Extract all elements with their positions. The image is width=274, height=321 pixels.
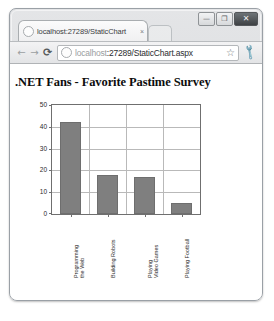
chart-plot-area <box>51 104 201 215</box>
new-tab-button[interactable] <box>148 25 172 42</box>
tab-close-icon[interactable]: × <box>138 28 144 35</box>
y-tick-mark <box>49 105 52 106</box>
x-axis-label: Programmingthe Web <box>73 218 85 278</box>
browser-toolbar: ← → ⟳ localhost:27289/StaticChart.aspx ☆… <box>10 41 262 64</box>
browser-tab[interactable]: localhost:27289/StaticChart × <box>18 20 148 41</box>
globe-icon <box>23 26 34 37</box>
bar <box>134 177 155 214</box>
page-title: .NET Fans - Favorite Pastime Survey <box>15 75 262 90</box>
x-tick-mark <box>182 214 183 217</box>
bar <box>60 122 81 214</box>
minimize-icon: — <box>199 13 214 25</box>
x-tick-mark <box>71 214 72 217</box>
x-axis-label-line: Playing <box>147 218 153 278</box>
y-tick-label: 0 <box>43 210 47 217</box>
page-content: .NET Fans - Favorite Pastime Survey 0102… <box>10 64 262 300</box>
y-tick-label: 10 <box>40 188 47 195</box>
bookmark-star-icon[interactable]: ☆ <box>225 47 236 58</box>
x-axis-label: Building Robots <box>110 218 116 278</box>
bar-chart: 01020304050 Programmingthe WebBuilding R… <box>15 100 243 300</box>
y-axis-labels: 01020304050 <box>29 104 47 215</box>
reload-icon[interactable]: ⟳ <box>41 46 54 59</box>
x-axis-label-line: Programming <box>73 218 79 278</box>
close-icon: ✕ <box>235 13 257 25</box>
maximize-button[interactable]: ❐ <box>216 12 233 26</box>
tab-strip: — ❐ ✕ localhost:27289/StaticChart × <box>10 9 262 41</box>
browser-window: — ❐ ✕ localhost:27289/StaticChart × ← → … <box>9 8 263 301</box>
wrench-menu-icon[interactable]: 🔧 <box>241 43 260 62</box>
y-tick-mark <box>49 170 52 171</box>
x-axis-labels: Programmingthe WebBuilding RobotsPlaying… <box>51 218 201 298</box>
minimize-button[interactable]: — <box>198 12 215 26</box>
gridline-vertical <box>126 105 127 214</box>
address-bar-path: :27289/StaticChart.aspx <box>107 48 193 58</box>
y-tick-mark <box>49 213 52 214</box>
back-icon[interactable]: ← <box>15 47 28 58</box>
x-axis-label-line: the Web <box>79 218 85 278</box>
window-controls: — ❐ ✕ <box>198 12 258 26</box>
y-tick-mark <box>49 192 52 193</box>
x-tick-mark <box>108 214 109 217</box>
x-axis-label: PlayingVideo Games <box>147 218 159 278</box>
y-tick-label: 30 <box>40 144 47 151</box>
address-bar-host: localhost <box>75 48 107 58</box>
close-window-button[interactable]: ✕ <box>234 12 258 26</box>
gridline-vertical <box>163 105 164 214</box>
y-tick-mark <box>49 127 52 128</box>
y-tick-label: 50 <box>40 101 47 108</box>
maximize-icon: ❐ <box>217 13 232 25</box>
x-tick-mark <box>145 214 146 217</box>
x-axis-label-line: Playing Football <box>184 218 190 278</box>
forward-icon[interactable]: → <box>28 47 41 58</box>
y-tick-mark <box>49 149 52 150</box>
address-bar[interactable]: localhost:27289/StaticChart.aspx ☆ <box>57 45 239 61</box>
x-axis-label-line: Building Robots <box>110 218 116 278</box>
x-axis-label: Playing Football <box>184 218 190 278</box>
address-bar-url: localhost:27289/StaticChart.aspx <box>75 48 225 58</box>
y-tick-label: 20 <box>40 166 47 173</box>
tab-title: localhost:27289/StaticChart <box>37 27 138 36</box>
y-tick-label: 40 <box>40 122 47 129</box>
globe-icon <box>61 47 72 58</box>
bar <box>171 203 192 214</box>
gridline-vertical <box>89 105 90 214</box>
bar <box>97 175 118 214</box>
x-axis-label-line: Video Games <box>153 218 159 278</box>
